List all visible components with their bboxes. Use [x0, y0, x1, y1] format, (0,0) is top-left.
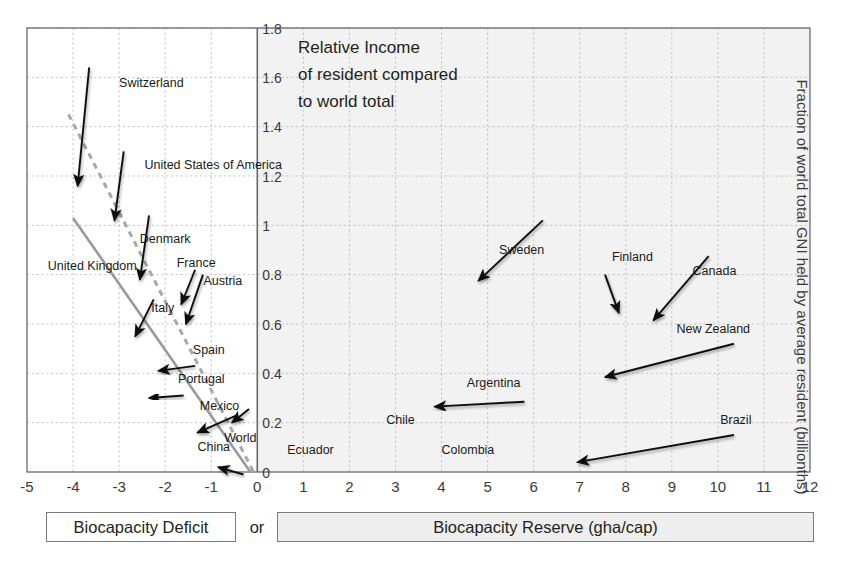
country-label-italy: Italy: [151, 301, 175, 315]
x-tick-12: 7: [576, 478, 584, 495]
y-tick-8: 1.6: [262, 70, 282, 86]
country-label-portugal: Portugal: [178, 372, 225, 386]
x-tick-4: -1: [205, 478, 218, 495]
y-tick-7: 1.4: [262, 119, 282, 135]
country-label-ecuador: Ecuador: [287, 443, 334, 457]
country-label-china: China: [197, 440, 230, 454]
y-tick-3: 0.6: [262, 317, 282, 333]
x-tick-11: 6: [529, 478, 537, 495]
x-tick-10: 5: [483, 478, 491, 495]
biocapacity-reserve-band: Biocapacity Reserve (gha/cap): [277, 512, 814, 542]
x-tick-15: 10: [710, 478, 727, 495]
x-tick-6: 1: [299, 478, 307, 495]
x-tick-0: -5: [20, 478, 33, 495]
biocapacity-deficit-label: Biocapacity Deficit: [74, 518, 209, 537]
x-axis-tick-labels: -5-4-3-2-10123456789101112: [20, 478, 818, 495]
x-tick-1: -4: [66, 478, 79, 495]
country-label-united-kingdom: United Kingdom: [48, 259, 137, 273]
x-tick-3: -2: [159, 478, 172, 495]
country-label-denmark: Denmark: [140, 232, 191, 246]
x-tick-8: 3: [391, 478, 399, 495]
country-label-switzerland: Switzerland: [119, 76, 184, 90]
biocapacity-deficit-band: Biocapacity Deficit: [46, 512, 236, 542]
title-line-3: to world total: [298, 92, 394, 111]
x-tick-16: 11: [756, 478, 772, 495]
scatter-plot-canvas: SwitzerlandUnited States of AmericaDenma…: [0, 0, 862, 574]
band-separator-or: or: [240, 512, 274, 542]
x-tick-14: 9: [668, 478, 676, 495]
country-label-sweden: Sweden: [499, 243, 544, 257]
biocapacity-reserve-label: Biocapacity Reserve (gha/cap): [433, 518, 658, 537]
x-tick-2: -3: [112, 478, 125, 495]
country-label-canada: Canada: [693, 264, 737, 278]
y-tick-5: 1: [262, 218, 270, 234]
country-label-mexico: Mexico: [200, 399, 240, 413]
country-label-austria: Austria: [203, 274, 242, 288]
country-label-chile: Chile: [386, 413, 415, 427]
country-label-finland: Finland: [612, 250, 653, 264]
x-tick-9: 4: [437, 478, 445, 495]
title-line-1: Relative Income: [298, 38, 420, 57]
x-tick-5: 0: [253, 478, 261, 495]
y-tick-4: 0.8: [262, 267, 282, 283]
y-tick-0: 0: [262, 465, 270, 481]
title-line-2: of resident compared: [298, 65, 458, 84]
chart-figure: SwitzerlandUnited States of AmericaDenma…: [0, 0, 862, 574]
country-label-spain: Spain: [193, 343, 225, 357]
right-axis-label: Fraction of world total GNI held by aver…: [784, 0, 822, 574]
y-tick-9: 1.8: [262, 21, 282, 37]
country-label-colombia: Colombia: [442, 443, 495, 457]
country-label-new-zealand: New Zealand: [676, 322, 750, 336]
x-tick-7: 2: [345, 478, 353, 495]
country-label-argentina: Argentina: [467, 376, 521, 390]
y-tick-1: 0.2: [262, 415, 282, 431]
x-tick-13: 8: [622, 478, 630, 495]
y-tick-6: 1.2: [262, 169, 282, 185]
country-label-brazil: Brazil: [720, 413, 751, 427]
or-label: or: [250, 518, 265, 537]
y-tick-2: 0.4: [262, 366, 282, 382]
country-label-france: France: [177, 256, 216, 270]
